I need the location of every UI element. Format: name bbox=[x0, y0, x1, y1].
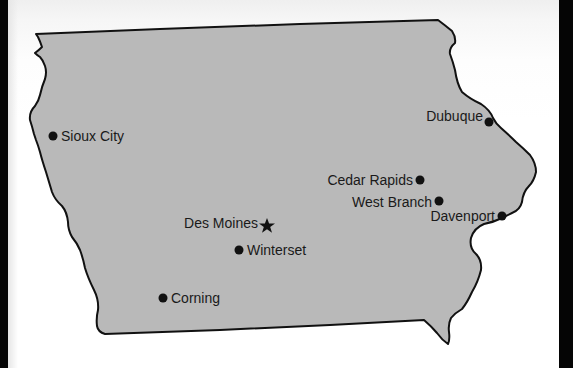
dubuque-dot-icon bbox=[485, 118, 494, 127]
davenport-dot-icon bbox=[498, 212, 507, 221]
winterset-dot-icon bbox=[235, 246, 244, 255]
west-branch-label: West Branch bbox=[352, 194, 432, 210]
cedar-rapids-dot-icon bbox=[416, 176, 425, 185]
sioux-city-dot-icon bbox=[49, 132, 58, 141]
corning-dot-icon bbox=[159, 294, 168, 303]
iowa-map: Sioux City Dubuque Cedar Rapids West Bra… bbox=[0, 0, 573, 368]
sioux-city-label: Sioux City bbox=[61, 128, 124, 144]
west-branch-dot-icon bbox=[435, 197, 444, 206]
cedar-rapids-label: Cedar Rapids bbox=[327, 172, 413, 188]
des-moines-label: Des Moines bbox=[184, 215, 258, 231]
davenport-label: Davenport bbox=[430, 208, 495, 224]
corning-label: Corning bbox=[171, 290, 220, 306]
dubuque-label: Dubuque bbox=[426, 108, 483, 124]
iowa-state-outline bbox=[30, 20, 536, 344]
winterset-label: Winterset bbox=[247, 242, 306, 258]
